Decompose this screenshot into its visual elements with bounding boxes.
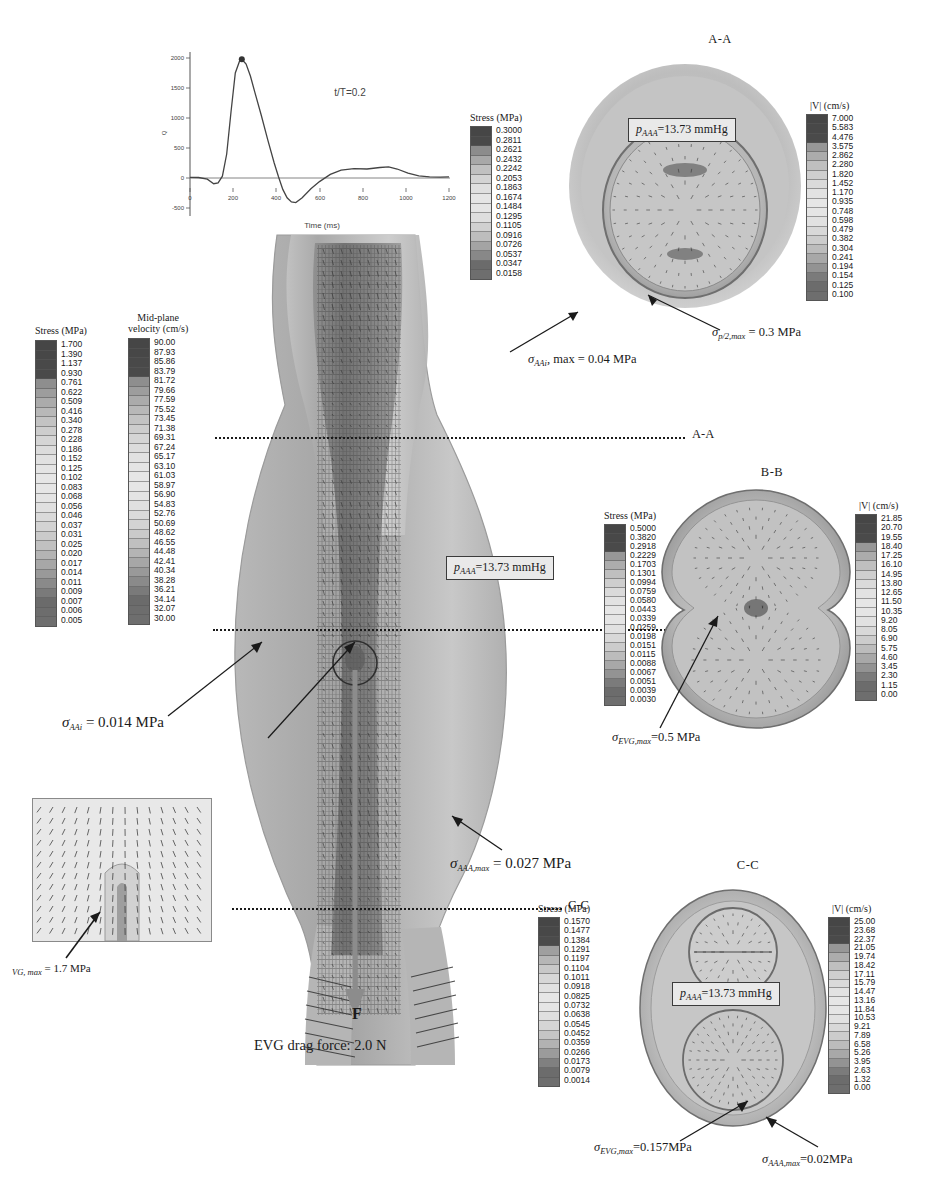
colorbar-swatch [36, 408, 56, 418]
colorbar-swatch [539, 965, 559, 974]
colorbar-swatch [471, 165, 491, 175]
colorbar-swatch [605, 597, 625, 606]
colorbar-swatch [36, 389, 56, 399]
colorbar-swatch [36, 608, 56, 618]
annotation-leader-line-inset [52, 900, 132, 962]
colorbar-swatch [807, 115, 827, 124]
colorbar-swatch [829, 918, 849, 927]
colorbar-swatch [856, 543, 876, 552]
y-axis-label: Q [161, 130, 167, 135]
colorbar-bb-velocity-group: |V| (cm/s) 21.8520.7019.5518.4017.2516.1… [855, 500, 902, 701]
colorbar-swatch [605, 643, 625, 652]
annotation-inset-evg-rest: = 1.7 MPa [42, 962, 91, 974]
svg-text:0: 0 [188, 195, 192, 201]
colorbar-swatch [605, 625, 625, 634]
colorbar-swatch [856, 682, 876, 691]
colorbar-swatch [829, 988, 849, 997]
colorbar-swatch [539, 1021, 559, 1030]
colorbar-swatch [605, 688, 625, 697]
colorbar-swatch [829, 1068, 849, 1077]
colorbar-swatch [36, 417, 56, 427]
svg-text:1000: 1000 [399, 195, 413, 201]
annotation-bb-evg-sub: EVG,max [618, 736, 651, 746]
annotation-leader-lines-aa [500, 290, 800, 370]
colorbar-swatch [36, 379, 56, 389]
colorbar-cc-stress-labels: 0.15700.14770.13840.12910.11970.11040.10… [564, 917, 590, 1085]
colorbar-swatch [829, 1041, 849, 1050]
colorbar-swatch [605, 543, 625, 552]
annotation-leader-line-bb [640, 610, 750, 735]
colorbar-swatch [807, 143, 827, 152]
colorbar-midplane-stress-title: Stress (MPa) [35, 325, 87, 336]
colorbar-swatch [129, 339, 149, 349]
colorbar-swatch [829, 936, 849, 945]
colorbar-swatch [856, 580, 876, 589]
colorbar-swatch [605, 588, 625, 597]
colorbar-swatch [36, 360, 56, 370]
colorbar-swatch [829, 953, 849, 962]
colorbar-midplane-velocity-title-2: velocity (cm/s) [128, 323, 188, 334]
colorbar-swatch [807, 208, 827, 217]
colorbar-swatch [829, 1085, 849, 1093]
colorbar-swatch [129, 615, 149, 624]
pressure-box-aa-value: =13.73 mmHg [658, 122, 728, 136]
colorbar-swatch [856, 524, 876, 533]
colorbar-swatch [856, 654, 876, 663]
annotation-inset-evg-sub: VG, max [12, 967, 42, 977]
colorbar-swatch [605, 561, 625, 570]
colorbar-swatch [36, 579, 56, 589]
colorbar-swatch [807, 161, 827, 170]
colorbar-swatch [36, 370, 56, 380]
colorbar-swatch [471, 156, 491, 166]
colorbar-swatch [807, 292, 827, 300]
colorbar-swatch [129, 482, 149, 492]
colorbar-swatch [129, 492, 149, 502]
colorbar-swatch [856, 608, 876, 617]
colorbar-swatch [36, 513, 56, 523]
colorbar-swatch [36, 598, 56, 608]
colorbar-swatch [856, 692, 876, 700]
colorbar-midplane-velocity-labels: 90.0087.9385.8683.7981.7279.6677.5975.52… [154, 338, 175, 623]
colorbar-swatch [36, 617, 56, 626]
colorbar-swatch [856, 627, 876, 636]
colorbar-swatch [36, 532, 56, 542]
colorbar-swatch [129, 434, 149, 444]
colorbar-midplane-stress-labels: 1.7001.3901.1370.9300.7610.6220.5090.416… [61, 340, 82, 625]
x-ticks [190, 188, 449, 192]
colorbar-swatch [36, 503, 56, 513]
colorbar-swatch [807, 254, 827, 263]
colorbar-swatch [829, 997, 849, 1006]
colorbar-swatch [539, 1049, 559, 1058]
colorbar-swatch [539, 1059, 559, 1068]
annotation-mid-aai-sub: AAi [69, 722, 82, 732]
colorbar-cc-velocity-title: |V| (cm/s) [828, 903, 875, 914]
colorbar-swatch [129, 444, 149, 454]
colorbar-swatch [129, 501, 149, 511]
pressure-box-mid-sub: AAA [460, 566, 476, 576]
colorbar-swatch [856, 552, 876, 561]
colorbar-swatch [129, 549, 149, 559]
colorbar-swatch [829, 1059, 849, 1068]
colorbar-swatch [829, 1076, 849, 1085]
colorbar-swatch [807, 152, 827, 161]
colorbar-swatch [829, 962, 849, 971]
colorbar-swatch [807, 199, 827, 208]
colorbar-swatch [36, 446, 56, 456]
colorbar-swatch [539, 956, 559, 965]
colorbar-swatch [856, 617, 876, 626]
pressure-box-aa-sub: AAA [642, 128, 658, 138]
colorbar-swatch [605, 697, 625, 705]
colorbar-swatch [605, 652, 625, 661]
colorbar-swatch [129, 568, 149, 578]
colorbar-swatch [129, 377, 149, 387]
colorbar-swatch [807, 217, 827, 226]
colorbar-swatch [605, 606, 625, 615]
colorbar-swatch [829, 1006, 849, 1015]
colorbar-swatch [36, 522, 56, 532]
colorbar-swatch [36, 570, 56, 580]
colorbar-swatch [605, 615, 625, 624]
colorbar-swatch [471, 223, 491, 233]
colorbar-swatch [129, 511, 149, 521]
colorbar-swatch [539, 1031, 559, 1040]
colorbar-swatch [539, 993, 559, 1002]
